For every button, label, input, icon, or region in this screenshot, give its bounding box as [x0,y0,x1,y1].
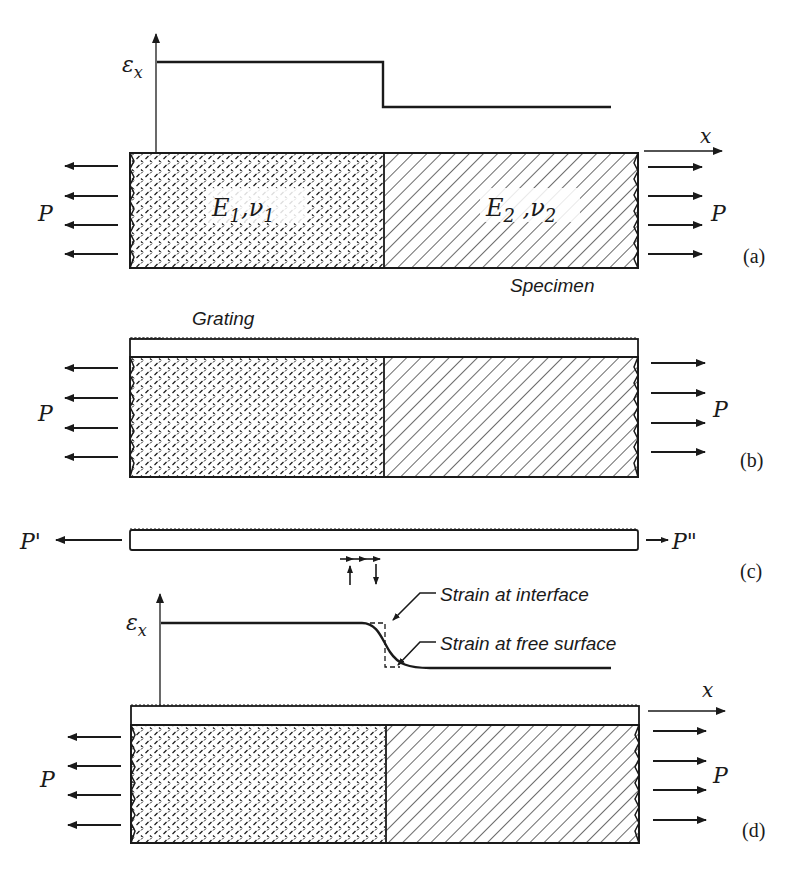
material-1-region [131,725,385,843]
isolated-grating-strip [130,530,638,550]
right-load-arrows [653,731,706,820]
left-load-arrows [68,737,121,825]
load-right-label: P" [671,529,697,554]
grating-strip [130,339,638,357]
interface-traction-arrows [340,559,380,585]
strain-interface-label: Strain at interface [440,584,589,605]
interface-leader [393,593,436,620]
panel-b: Grating P P (b) [37,308,763,477]
material-2-region [384,357,638,477]
strain-axis-label: εx [126,610,147,640]
strain-surface-label: Strain at free surface [440,633,616,654]
material-2-region [385,725,639,843]
panel-c: P' P" (c) [19,529,762,585]
left-load-arrows [65,166,118,254]
bimaterial-grating-diagram: εx E1,ν1 E2 ,ν2 x P P (a) [0,0,801,879]
load-right-label: P [712,397,729,422]
strain-axis-label: εx [122,52,143,82]
panel-d-label: (d) [742,819,765,842]
load-left-label: P' [19,529,41,554]
load-left-label: P [37,401,54,426]
load-left-label: P [37,201,54,226]
right-load-arrows [648,167,702,254]
interface-strain-profile [370,623,400,667]
panel-a: εx E1,ν1 E2 ,ν2 x P P (a) [37,34,765,296]
grating-strip [131,706,639,725]
surface-leader [398,642,436,665]
panel-a-label: (a) [743,245,765,268]
panel-c-label: (c) [740,560,762,583]
load-right-label: P [712,763,729,788]
panel-d: εx Strain at interface Strain at free su… [39,584,765,843]
x-axis-label: x [700,124,711,148]
load-right-label: P [710,201,727,226]
grating-label: Grating [192,308,255,329]
x-axis-label: x [702,678,713,702]
left-load-arrows [65,368,118,457]
step-strain-profile [157,62,611,107]
panel-b-label: (b) [740,449,763,472]
material-1-region [130,357,384,477]
specimen-label: Specimen [510,275,595,296]
right-load-arrows [651,363,705,452]
load-left-label: P [39,767,56,792]
